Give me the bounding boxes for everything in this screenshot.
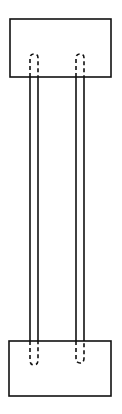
left-rod <box>30 77 38 341</box>
bottom-block <box>9 341 111 396</box>
top-block <box>10 19 111 77</box>
right-rod-top-hidden-end <box>76 54 84 77</box>
left-rod-top-hidden-end <box>30 54 38 77</box>
left-rod-bottom-hidden-end <box>30 341 38 365</box>
bottom-hidden-rod-ends <box>30 341 84 365</box>
right-rod-bottom-hidden-end <box>76 341 84 363</box>
right-rod <box>76 77 84 341</box>
top-hidden-rod-ends <box>30 54 84 77</box>
diagram-canvas <box>0 0 122 414</box>
